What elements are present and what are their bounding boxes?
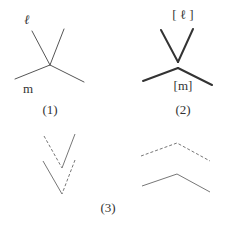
figure-3-right [141,143,210,192]
fig1-line-upper-right [50,29,64,65]
fig1-line-lower-right [50,65,84,82]
fig2-upper-v-right [178,29,193,62]
fig1-label-m: m [23,81,33,96]
fig3-left-lower-solid-arm [43,161,62,194]
fig2-caption: (2) [175,102,190,117]
fig3-left-lower-dashed-arm [62,160,75,194]
fig1-label-l: ℓ [24,12,30,27]
fig3-right-lower-solid-chevron [142,174,210,192]
fig1-line-m [15,65,50,79]
figure-3-left [43,134,75,194]
diagram-canvas: ℓ m (1) [ ℓ ] [m] (2) (3) [0,0,231,226]
fig3-caption: (3) [100,200,115,215]
figure-1: ℓ m (1) [15,12,84,117]
fig1-line-l [32,31,50,65]
fig3-left-upper-dashed-arm [44,136,62,168]
fig2-label-m: [m] [174,78,193,93]
fig1-caption: (1) [42,102,57,117]
figure-2: [ ℓ ] [m] (2) [143,7,212,117]
fig3-left-upper-solid-arm [62,134,75,168]
fig2-label-l: [ ℓ ] [172,7,193,22]
fig2-upper-v-left [161,30,178,62]
fig3-right-upper-dashed-chevron [141,143,210,161]
